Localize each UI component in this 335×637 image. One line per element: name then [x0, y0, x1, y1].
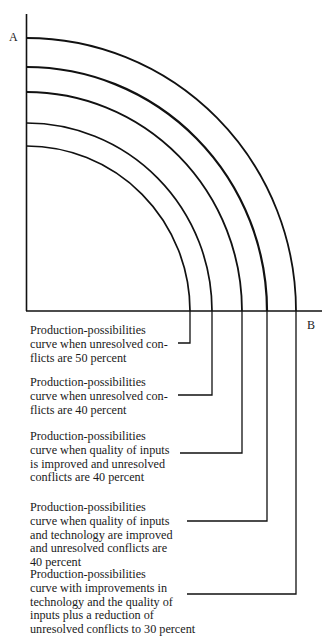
x-axis-label-b: B — [307, 318, 315, 333]
ppf-curve-2 — [27, 123, 213, 311]
ppf-curve-5 — [27, 38, 297, 311]
label-line: curve when quality of inputs — [30, 444, 169, 458]
label-line: Production-possibilities — [30, 376, 168, 390]
label-line: flicts are 40 percent — [30, 404, 168, 418]
label-line: curve when quality of inputs — [30, 515, 172, 529]
label-line: conflicts are 40 percent — [30, 471, 169, 485]
label-line: technology and the quality of — [30, 596, 195, 610]
label-line: Production-possibilities — [30, 324, 168, 338]
curve-label-1: Production-possibilitiescurve when unres… — [30, 324, 168, 365]
curve-label-5: Production-possibilitiescurve with impro… — [30, 568, 195, 637]
label-line: Production-possibilities — [30, 568, 195, 582]
label-line: unresolved conflicts to 30 percent — [30, 623, 195, 637]
y-axis-label-a: A — [9, 30, 18, 45]
label-line: and unresolved conflicts are — [30, 542, 172, 556]
label-line: curve with improvements in — [30, 582, 195, 596]
leader-line-1 — [178, 311, 190, 343]
label-line: Production-possibilities — [30, 430, 169, 444]
label-line: flicts are 50 percent — [30, 352, 168, 366]
label-line: and technology are improved — [30, 529, 172, 543]
curve-label-2: Production-possibilitiescurve when unres… — [30, 376, 168, 417]
curve-label-4: Production-possibilitiescurve when quali… — [30, 501, 172, 570]
ppf-curve-4 — [27, 67, 268, 311]
label-line: Production-possibilities — [30, 501, 172, 515]
label-line: inputs plus a reduction of — [30, 609, 195, 623]
leader-line-4 — [187, 311, 267, 521]
label-line: is improved and unresolved — [30, 458, 169, 472]
leader-line-3 — [180, 311, 242, 453]
label-line: curve when unresolved con- — [30, 390, 168, 404]
ppf-curve-1 — [27, 146, 191, 311]
leader-line-2 — [178, 311, 212, 395]
curve-label-3: Production-possibilitiescurve when quali… — [30, 430, 169, 485]
label-line: curve when unresolved con- — [30, 338, 168, 352]
